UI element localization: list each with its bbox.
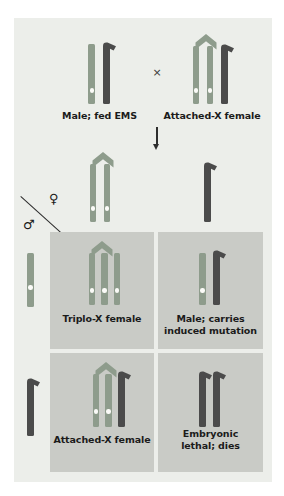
centromere-dot xyxy=(90,288,95,293)
female-symbol: ♀ xyxy=(49,192,59,205)
x-chromosome-arm xyxy=(105,374,112,427)
cross-symbol: × xyxy=(150,66,164,79)
centromere-dot xyxy=(105,206,110,211)
centromere-dot xyxy=(94,409,99,414)
x-chromosome-arm xyxy=(90,164,97,222)
x-chromosome-arm xyxy=(104,164,111,222)
centromere-dot xyxy=(194,88,199,93)
centromere-dot xyxy=(90,88,95,93)
x-chromosome-arm xyxy=(27,253,34,307)
centromere-dot xyxy=(115,288,120,293)
attached-x-cross-diagram: Male; fed EMS × Attached-X female xyxy=(0,0,284,496)
y-chromosome-hook xyxy=(211,249,229,263)
x-chromosome-arm xyxy=(193,46,200,104)
punnett-label-embryonic-lethal: Embryonic lethal; dies xyxy=(158,428,263,451)
y-chromosome-hook xyxy=(211,370,229,384)
centromere-dot xyxy=(200,288,205,293)
centromere-dot xyxy=(91,206,96,211)
x-chromosome-arm xyxy=(114,253,121,305)
parent-male-label: Male; fed EMS xyxy=(42,110,157,122)
y-chromosome-hook xyxy=(116,370,134,384)
x-chromosome-arm xyxy=(89,253,96,305)
x-chromosome-arm xyxy=(88,44,95,104)
punnett-label-attached-x-female: Attached-X female xyxy=(48,434,156,446)
generation-arrow-head xyxy=(153,144,159,150)
centromere-dot xyxy=(208,88,213,93)
y-chromosome-hook xyxy=(25,377,43,391)
x-chromosome-arm xyxy=(101,253,108,305)
parent-female-label: Attached-X female xyxy=(152,110,272,122)
y-chromosome-hook xyxy=(101,41,119,55)
x-chromosome-arm xyxy=(207,46,214,104)
centromere-dot xyxy=(102,288,107,293)
x-chromosome-arm xyxy=(199,253,206,305)
y-chromosome-hook xyxy=(202,161,220,175)
male-symbol: ♂ xyxy=(23,218,35,231)
punnett-label-triplo-x-female: Triplo-X female xyxy=(50,313,154,325)
centromere-dot xyxy=(28,285,33,290)
y-chromosome-hook xyxy=(219,43,237,57)
punnett-label-male-induced-mutation: Male; carries induced mutation xyxy=(158,313,263,336)
x-chromosome-arm xyxy=(93,374,100,427)
centromere-dot xyxy=(106,409,111,414)
